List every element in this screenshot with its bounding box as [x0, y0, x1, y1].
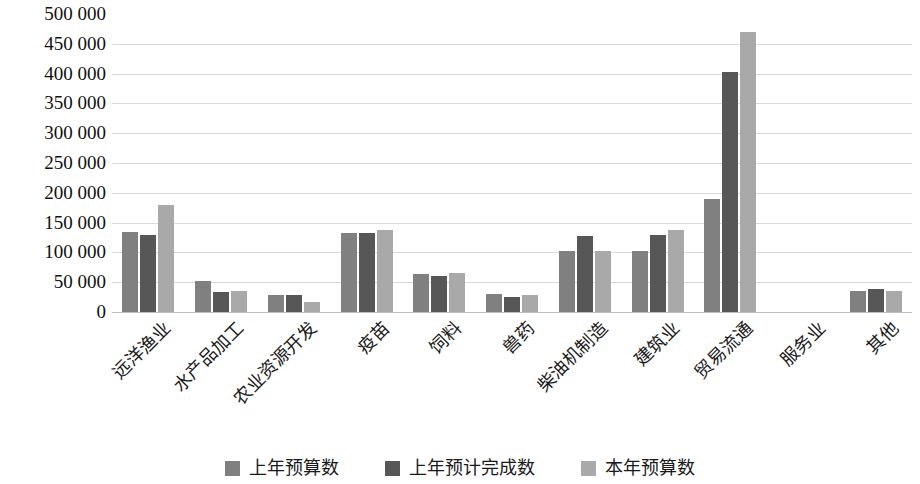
bar[interactable] [504, 297, 520, 312]
bar[interactable] [413, 274, 429, 312]
x-axis-tick-label: 服务业 [777, 318, 829, 370]
y-axis-tick-label: 450 000 [0, 34, 106, 53]
bar[interactable] [740, 32, 756, 312]
bar[interactable] [650, 235, 666, 312]
x-axis-tick-label: 建筑业 [631, 318, 683, 370]
x-axis-tick-label: 柴油机制造 [533, 318, 611, 396]
bar[interactable] [632, 251, 648, 312]
bar[interactable] [377, 230, 393, 312]
bar[interactable] [559, 251, 575, 312]
bar-group [694, 14, 767, 312]
bar-group [839, 14, 912, 312]
legend-swatch-icon [225, 461, 240, 476]
bar[interactable] [886, 291, 902, 312]
bar-group [185, 14, 258, 312]
y-axis-tick-label: 250 000 [0, 153, 106, 172]
y-axis-tick-label: 50 000 [0, 272, 106, 291]
x-axis-tick-label: 饲料 [426, 318, 466, 358]
bar[interactable] [522, 295, 538, 312]
y-axis-tick-label: 200 000 [0, 183, 106, 202]
bar-group [403, 14, 476, 312]
y-axis-tick-label: 500 000 [0, 4, 106, 23]
y-axis-tick-label: 400 000 [0, 64, 106, 83]
bar[interactable] [213, 292, 229, 312]
chart-legend: 上年预算数上年预计完成数本年预算数 [0, 452, 920, 484]
x-axis-tick-label: 其他 [862, 318, 902, 358]
bar[interactable] [341, 233, 357, 312]
bar-group [767, 14, 840, 312]
bar[interactable] [486, 294, 502, 312]
legend-swatch-icon [581, 461, 596, 476]
bar[interactable] [868, 289, 884, 312]
bar-group [621, 14, 694, 312]
bar[interactable] [122, 232, 138, 312]
legend-swatch-icon [385, 461, 400, 476]
x-axis-tick-label: 疫苗 [353, 318, 393, 358]
bar[interactable] [231, 291, 247, 312]
bar-group [330, 14, 403, 312]
bar-group [257, 14, 330, 312]
bar-group [476, 14, 549, 312]
bar[interactable] [286, 295, 302, 312]
bar[interactable] [359, 233, 375, 312]
legend-item[interactable]: 上年预算数 [225, 459, 339, 477]
bar[interactable] [431, 276, 447, 312]
plot-area [112, 14, 912, 312]
x-axis: 远洋渔业水产品加工农业资源开发疫苗饲料兽药柴油机制造建筑业贸易流通服务业其他 [112, 312, 912, 442]
bar[interactable] [449, 273, 465, 312]
y-axis-tick-label: 350 000 [0, 93, 106, 112]
x-axis-tick-label: 水产品加工 [169, 318, 247, 396]
bar-group [112, 14, 185, 312]
y-axis-tick-label: 150 000 [0, 213, 106, 232]
bar[interactable] [704, 199, 720, 312]
y-axis: 500 000450 000400 000350 000300 000250 0… [0, 0, 106, 326]
bar[interactable] [195, 281, 211, 312]
bars-layer [112, 14, 912, 312]
y-axis-tick-label: 100 000 [0, 242, 106, 261]
legend-label: 上年预算数 [249, 459, 339, 477]
legend-item[interactable]: 上年预计完成数 [385, 459, 535, 477]
bar[interactable] [595, 251, 611, 312]
legend-label: 上年预计完成数 [409, 459, 535, 477]
legend-label: 本年预算数 [605, 459, 695, 477]
bar[interactable] [722, 72, 738, 312]
bar[interactable] [304, 302, 320, 312]
bar[interactable] [140, 235, 156, 312]
bar[interactable] [577, 236, 593, 312]
y-axis-tick-label: 0 [0, 302, 106, 321]
x-axis-tick-label: 贸易流通 [691, 318, 756, 383]
x-axis-tick-label: 兽药 [499, 318, 539, 358]
bar-group [548, 14, 621, 312]
bar[interactable] [850, 291, 866, 312]
bar-chart: 500 000450 000400 000350 000300 000250 0… [0, 0, 920, 484]
bar[interactable] [268, 295, 284, 312]
x-axis-tick-label: 远洋渔业 [109, 318, 174, 383]
legend-item[interactable]: 本年预算数 [581, 459, 695, 477]
bar[interactable] [668, 230, 684, 312]
y-axis-tick-label: 300 000 [0, 123, 106, 142]
bar[interactable] [158, 205, 174, 312]
